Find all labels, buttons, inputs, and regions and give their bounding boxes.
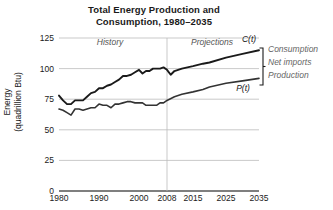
x-tick-label-2035: 2035 bbox=[250, 193, 269, 203]
y-tick-label-75: 75 bbox=[45, 94, 55, 104]
legend-entries: Consumption Net imports Production bbox=[268, 44, 318, 80]
projections-annotation: Projections bbox=[191, 37, 234, 47]
y-tick-label-125: 125 bbox=[40, 33, 54, 43]
consumption-line bbox=[59, 50, 259, 104]
legend-entry-production: Production bbox=[268, 70, 309, 80]
history-annotation: History bbox=[97, 37, 124, 47]
y-tick-label-50: 50 bbox=[45, 125, 55, 135]
y-tick-label-100: 100 bbox=[40, 64, 54, 74]
x-tick-label-1980: 1980 bbox=[50, 193, 69, 203]
production-line bbox=[59, 78, 259, 115]
x-tick-label-2000: 2000 bbox=[130, 193, 149, 203]
x-tick-label-2015: 2015 bbox=[184, 193, 203, 203]
production-curve-label: P(t) bbox=[236, 83, 250, 93]
consumption-curve-label: C(t) bbox=[242, 34, 256, 44]
x-tick-label-1990: 1990 bbox=[90, 193, 109, 203]
chart-figure: Total Energy Production and Consumption,… bbox=[0, 0, 333, 210]
y-tick-label-25: 25 bbox=[45, 155, 55, 165]
legend-bracket-icon bbox=[260, 48, 266, 85]
legend-entry-net-imports: Net imports bbox=[268, 57, 312, 67]
chart-svg: 125 100 75 50 25 0 1980 1990 2000 2008 2… bbox=[0, 0, 333, 210]
x-tick-label-2025: 2025 bbox=[217, 193, 236, 203]
x-tick-labels: 1980 1990 2000 2008 2015 2025 2035 bbox=[50, 193, 269, 203]
y-tick-labels: 125 100 75 50 25 0 bbox=[40, 33, 54, 196]
x-tick-label-2008: 2008 bbox=[158, 193, 177, 203]
legend-entry-consumption: Consumption bbox=[268, 44, 318, 54]
